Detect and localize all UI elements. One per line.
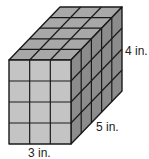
depth-label: 5 in. bbox=[96, 121, 119, 133]
height-label: 4 in. bbox=[125, 45, 148, 57]
width-label: 3 in. bbox=[28, 147, 51, 159]
cube-prism-diagram bbox=[0, 0, 149, 159]
